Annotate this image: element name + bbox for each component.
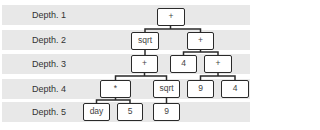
tree-node-plus: +: [131, 55, 158, 73]
tree-node-constant-4: 4: [170, 55, 197, 73]
tree-node-multiply: *: [100, 80, 131, 98]
tree-node-sqrt: sqrt: [153, 80, 180, 98]
tree-node-constant-9: 9: [153, 103, 180, 121]
tree-node-plus: +: [187, 32, 214, 50]
tree-node-sqrt: sqrt: [131, 32, 159, 50]
tree-node-constant-5: 5: [117, 103, 143, 121]
tree-node-plus: +: [204, 55, 232, 73]
tree-node-root-plus: +: [157, 8, 185, 26]
tree-node-variable-day: day: [83, 103, 110, 121]
tree-node-constant-9: 9: [187, 80, 214, 98]
tree-node-constant-4: 4: [221, 80, 249, 98]
